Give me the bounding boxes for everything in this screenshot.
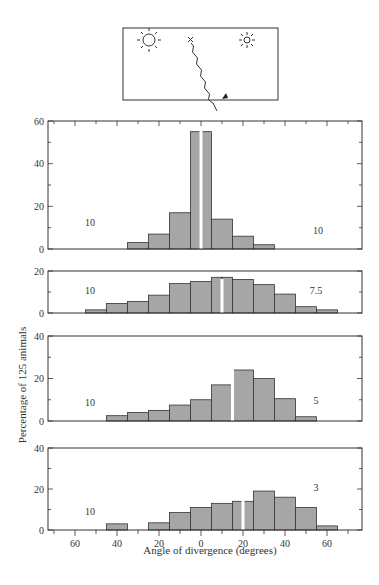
annotation-right: 5 bbox=[314, 395, 319, 406]
annotation-right: 3 bbox=[314, 482, 319, 493]
histogram-bar bbox=[296, 417, 317, 421]
histogram-panel-1: 02040601010 bbox=[34, 116, 362, 255]
histogram-bar bbox=[128, 301, 149, 313]
histogram-panel-3: 02040105 bbox=[34, 331, 362, 427]
x-tick-label: 40 bbox=[280, 538, 290, 549]
histogram-bar bbox=[170, 213, 191, 249]
histogram-bar bbox=[170, 284, 191, 313]
y-tick-label: 0 bbox=[39, 525, 44, 536]
histogram-bar bbox=[128, 243, 149, 249]
histogram-panel-2: 020107.5 bbox=[34, 266, 362, 319]
y-tick-label: 0 bbox=[39, 416, 44, 427]
x-axis-label: Angle of divergence (degrees) bbox=[143, 544, 277, 557]
histogram-bar bbox=[254, 491, 275, 530]
x-tick-label: 40 bbox=[112, 538, 122, 549]
y-tick-label: 40 bbox=[34, 443, 44, 454]
histogram-bar bbox=[191, 282, 212, 314]
inset-schematic bbox=[123, 28, 278, 111]
histogram-bar bbox=[275, 399, 296, 421]
wavy-path-arrow-icon bbox=[191, 43, 217, 111]
histogram-bar bbox=[191, 400, 212, 421]
histogram-bar bbox=[222, 277, 233, 313]
figure: 02040601010020107.5020401050204010360402… bbox=[0, 0, 379, 585]
annotation-right: 7.5 bbox=[310, 285, 323, 296]
y-tick-label: 0 bbox=[39, 244, 44, 255]
histogram-bar bbox=[212, 277, 223, 313]
histogram-bar bbox=[233, 236, 254, 249]
y-tick-label: 20 bbox=[34, 266, 44, 277]
histogram-bar bbox=[296, 507, 317, 530]
annotation-left: 10 bbox=[85, 285, 95, 296]
annotation-left: 10 bbox=[85, 506, 95, 517]
histogram-bar bbox=[233, 370, 254, 421]
y-tick-label: 20 bbox=[34, 373, 44, 384]
y-tick-label: 40 bbox=[34, 158, 44, 169]
annotation-right: 10 bbox=[313, 225, 323, 236]
y-axis-label: Percentage of 125 animals bbox=[16, 327, 28, 443]
histogram-bar bbox=[128, 413, 149, 422]
y-tick-label: 60 bbox=[34, 116, 44, 127]
histogram-bar bbox=[254, 285, 275, 313]
histogram-bar bbox=[149, 234, 170, 249]
histogram-bar bbox=[107, 416, 128, 421]
histogram-bar bbox=[275, 294, 296, 313]
y-tick-label: 0 bbox=[39, 308, 44, 319]
small-sun-icon bbox=[239, 32, 255, 48]
sun-icon bbox=[137, 28, 161, 52]
x-mark-icon bbox=[188, 37, 193, 42]
histogram-bar bbox=[233, 501, 244, 530]
histogram-bar bbox=[149, 295, 170, 313]
y-tick-label: 20 bbox=[34, 201, 44, 212]
y-tick-label: 40 bbox=[34, 331, 44, 342]
histogram-bar bbox=[212, 385, 233, 421]
histogram-bar bbox=[243, 501, 254, 530]
histogram-bar bbox=[149, 523, 170, 530]
histogram-bar bbox=[170, 405, 191, 421]
histogram-bar bbox=[296, 307, 317, 313]
histogram-bar bbox=[212, 219, 233, 249]
x-tick-label: 60 bbox=[70, 538, 80, 549]
y-tick-label: 20 bbox=[34, 484, 44, 495]
histogram-bar bbox=[275, 497, 296, 530]
histogram-bar bbox=[191, 507, 212, 530]
histogram-bar bbox=[317, 526, 338, 530]
histogram-bar bbox=[201, 132, 212, 249]
histogram-bar bbox=[149, 410, 170, 421]
histogram-bar bbox=[254, 379, 275, 422]
histogram-bar bbox=[107, 524, 128, 530]
histogram-bar bbox=[170, 513, 191, 530]
histogram-bar bbox=[191, 132, 202, 249]
histogram-panel-4: 020401036040200204060 bbox=[34, 443, 362, 550]
histogram-bar bbox=[212, 503, 233, 530]
x-tick-label: 60 bbox=[322, 538, 332, 549]
histogram-bar bbox=[254, 245, 275, 249]
annotation-left: 10 bbox=[85, 217, 95, 228]
annotation-left: 10 bbox=[85, 397, 95, 408]
histogram-bar bbox=[233, 279, 254, 313]
histogram-bar bbox=[107, 304, 128, 313]
